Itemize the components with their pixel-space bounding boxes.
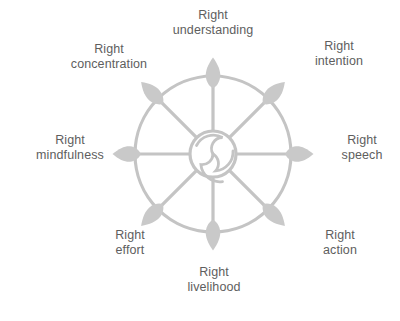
petal-understanding-icon: [206, 58, 220, 89]
wheel-group: [113, 58, 314, 251]
label-line-1: Right: [16, 133, 124, 148]
label-line-1: Right: [288, 39, 390, 54]
label-line-2: effort: [86, 243, 174, 258]
label-line-2: speech: [326, 148, 398, 163]
label-line-2: action: [296, 243, 384, 258]
label-right-effort: Right effort: [86, 228, 174, 257]
label-right-concentration: Right concentration: [48, 42, 170, 71]
label-line-1: Right: [150, 8, 276, 23]
petal-livelihood-icon: [206, 220, 220, 251]
label-line-1: Right: [48, 42, 170, 57]
label-right-understanding: Right understanding: [150, 8, 276, 37]
label-line-2: concentration: [48, 57, 170, 72]
label-line-2: livelihood: [162, 280, 266, 295]
label-line-1: Right: [162, 265, 266, 280]
label-line-2: intention: [288, 54, 390, 69]
eightfold-path-diagram: Right understanding Right intention Righ…: [0, 0, 400, 321]
label-right-livelihood: Right livelihood: [162, 265, 266, 294]
label-right-intention: Right intention: [288, 39, 390, 68]
label-line-2: understanding: [150, 23, 276, 38]
label-right-mindfulness: Right mindfulness: [16, 133, 124, 162]
label-line-1: Right: [296, 228, 384, 243]
label-line-1: Right: [326, 133, 398, 148]
label-right-speech: Right speech: [326, 133, 398, 162]
label-line-2: mindfulness: [16, 148, 124, 163]
label-line-1: Right: [86, 228, 174, 243]
label-right-action: Right action: [296, 228, 384, 257]
